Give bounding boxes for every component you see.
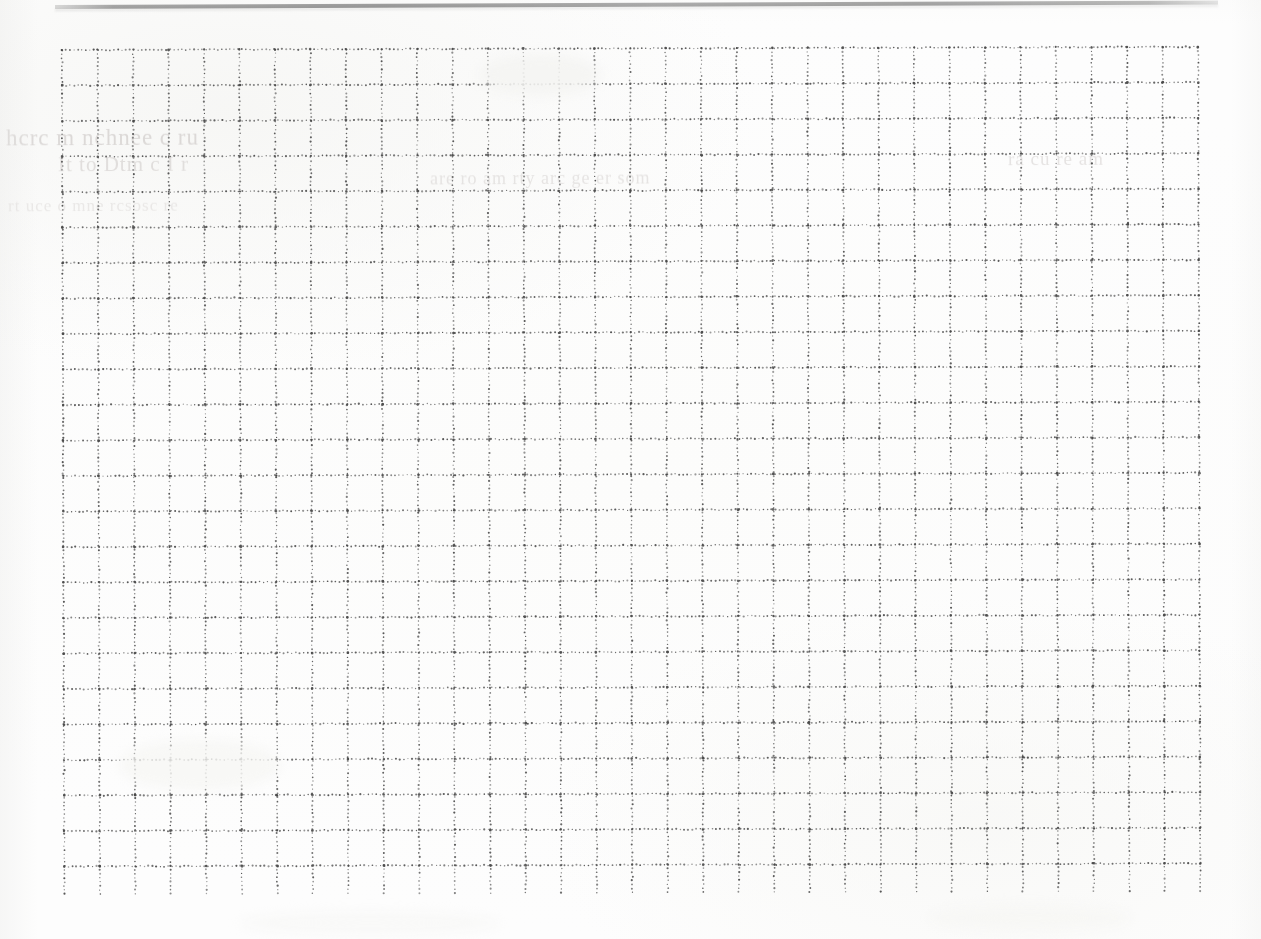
- dotted-grid: [62, 47, 1203, 896]
- scanned-page: Blank scanned page of dotted quadrille g…: [0, 0, 1261, 939]
- dotted-grid-svg: [62, 47, 1203, 896]
- grid-lines: [60, 45, 1202, 895]
